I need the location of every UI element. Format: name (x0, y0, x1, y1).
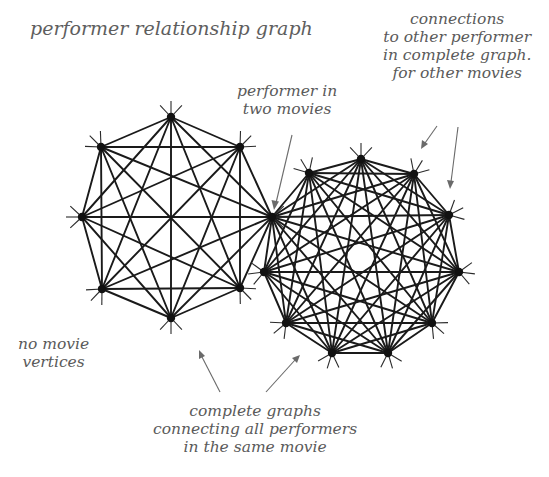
arrow-to-left-graph (202, 357, 220, 392)
right-graph-edge (361, 159, 414, 174)
performer-vertex-icon (236, 284, 244, 292)
performer-vertex-icon (98, 285, 106, 293)
arrow-to-shared-vertex (276, 135, 292, 203)
annotation-no-movie-vertices: no movie vertices (18, 335, 89, 371)
performer-relationship-diagram: performer relationship graph performer i… (0, 0, 549, 477)
performer-vertex-icon (260, 268, 268, 276)
right-graph-edge (309, 173, 414, 174)
arrow-to-right-graph (266, 360, 295, 392)
performer-vertex-icon (357, 155, 365, 163)
performer-vertex-icon (445, 211, 453, 219)
right-graph-edge (272, 215, 449, 217)
performer-vertex-icon (167, 314, 175, 322)
performer-vertex-icon (328, 349, 336, 357)
left-graph-edge (102, 288, 240, 289)
annotation-complete-graphs: complete graphs connecting all performer… (153, 402, 357, 456)
performer-vertex-icon (305, 169, 313, 177)
arrow-to-stub-right (451, 127, 458, 182)
performer-vertex-icon (455, 268, 463, 276)
performer-vertex-icon (167, 113, 175, 121)
annotation-performer-two-movies: performer in two movies (237, 82, 337, 118)
performer-vertex-icon (282, 319, 290, 327)
arrow-to-stub-upper (425, 126, 437, 143)
left-graph-edge (101, 147, 102, 289)
right-graph-edge (309, 159, 361, 173)
arrowhead-icon (272, 200, 280, 210)
arrowhead-icon (447, 180, 454, 189)
diagram-title: performer relationship graph (30, 19, 313, 37)
performer-vertex-icon (268, 213, 276, 221)
performer-vertex-icon (78, 213, 86, 221)
performer-vertex-icon (428, 319, 436, 327)
performer-vertex-icon (236, 143, 244, 151)
performer-vertex-icon (384, 349, 392, 357)
performer-vertex-icon (97, 143, 105, 151)
arrowhead-icon (421, 140, 428, 149)
annotation-connections: connections to other performer in comple… (383, 10, 531, 82)
performer-vertex-icon (410, 170, 418, 178)
